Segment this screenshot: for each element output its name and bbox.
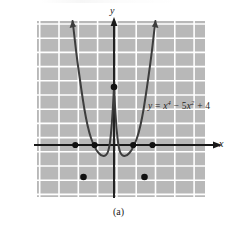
x-axis-label: x [219,139,223,149]
equation-equals: = [152,101,163,111]
figure-caption: (a) [0,206,237,217]
equation-operator-plus: + [195,101,206,111]
point-root-pos2 [149,142,155,148]
figure-panel-a: y x y = x4 − 5x2 + 4 (a) [0,0,237,228]
equation-operator-minus: − [171,101,182,111]
equation-annotation: y = x4 − 5x2 + 4 [148,101,210,111]
point-root-neg1 [92,142,98,148]
point-local-min-left [80,174,87,181]
point-local-min-right [141,174,148,181]
point-root-pos1 [130,142,136,148]
y-axis-label: y [110,6,114,16]
point-local-max [111,84,118,91]
y-axis [111,17,118,198]
equation-constant: 4 [205,101,210,111]
point-root-neg2 [72,142,78,148]
plot-canvas [0,0,237,228]
x-axis [34,142,222,149]
